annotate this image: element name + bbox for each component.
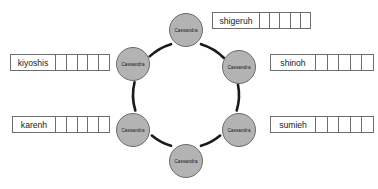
row-shigeruh-cell[interactable] bbox=[270, 13, 280, 28]
node-upper-right[interactable] bbox=[223, 51, 256, 84]
ring-edge bbox=[150, 44, 171, 56]
row-kiyoshis[interactable]: kiyoshis bbox=[10, 54, 110, 71]
row-shigeruh-cells bbox=[260, 13, 310, 28]
row-sumieh-key: sumieh bbox=[271, 117, 316, 132]
row-sumieh-cell[interactable] bbox=[362, 117, 373, 132]
node-lower-left[interactable] bbox=[117, 114, 150, 147]
row-karenh-cells bbox=[56, 117, 109, 132]
row-shinoh-cells bbox=[316, 55, 373, 70]
node-top[interactable] bbox=[170, 14, 203, 47]
ring-edge bbox=[237, 84, 239, 110]
node-lower-right[interactable] bbox=[223, 114, 256, 147]
row-sumieh-cell[interactable] bbox=[351, 117, 363, 132]
row-kiyoshis-key: kiyoshis bbox=[11, 55, 56, 70]
row-karenh-key: karenh bbox=[13, 117, 56, 132]
row-kiyoshis-cell[interactable] bbox=[88, 55, 99, 70]
row-kiyoshis-cell[interactable] bbox=[67, 55, 78, 70]
row-shigeruh[interactable]: shigeruh bbox=[212, 12, 311, 29]
row-kiyoshis-cell[interactable] bbox=[56, 55, 67, 70]
row-shigeruh-cell[interactable] bbox=[301, 13, 310, 28]
row-sumieh-cell[interactable] bbox=[316, 117, 328, 132]
row-shinoh-cell[interactable] bbox=[362, 55, 373, 70]
ring-edge bbox=[201, 44, 224, 58]
row-shigeruh-cell[interactable] bbox=[280, 13, 290, 28]
row-shinoh-key: shinoh bbox=[271, 55, 316, 70]
row-shigeruh-key: shigeruh bbox=[213, 13, 260, 28]
diagram-canvas: CassandraCassandraCassandraCassandraCass… bbox=[0, 0, 378, 189]
row-shinoh-cell[interactable] bbox=[339, 55, 351, 70]
row-karenh-cell[interactable] bbox=[67, 117, 78, 132]
cassandra-ring-graphic bbox=[0, 0, 378, 189]
row-sumieh-cells bbox=[316, 117, 373, 132]
row-karenh[interactable]: karenh bbox=[12, 116, 110, 133]
row-shinoh-cell[interactable] bbox=[316, 55, 328, 70]
row-sumieh-cell[interactable] bbox=[328, 117, 340, 132]
node-upper-left[interactable] bbox=[117, 48, 150, 81]
row-karenh-cell[interactable] bbox=[88, 117, 99, 132]
row-kiyoshis-cell[interactable] bbox=[99, 55, 109, 70]
row-kiyoshis-cells bbox=[56, 55, 109, 70]
row-shinoh-cell[interactable] bbox=[328, 55, 340, 70]
node-bottom[interactable] bbox=[170, 145, 203, 178]
row-karenh-cell[interactable] bbox=[56, 117, 67, 132]
row-sumieh-cell[interactable] bbox=[339, 117, 351, 132]
row-shigeruh-cell[interactable] bbox=[260, 13, 270, 28]
row-sumieh[interactable]: sumieh bbox=[270, 116, 374, 133]
row-karenh-cell[interactable] bbox=[78, 117, 89, 132]
row-shigeruh-cell[interactable] bbox=[291, 13, 301, 28]
row-kiyoshis-cell[interactable] bbox=[78, 55, 89, 70]
ring-edge bbox=[201, 136, 220, 146]
ring-nodes bbox=[117, 14, 256, 178]
row-shinoh[interactable]: shinoh bbox=[270, 54, 374, 71]
row-shinoh-cell[interactable] bbox=[351, 55, 363, 70]
ring-edge bbox=[133, 82, 135, 110]
ring-edge bbox=[152, 136, 171, 146]
row-karenh-cell[interactable] bbox=[99, 117, 109, 132]
